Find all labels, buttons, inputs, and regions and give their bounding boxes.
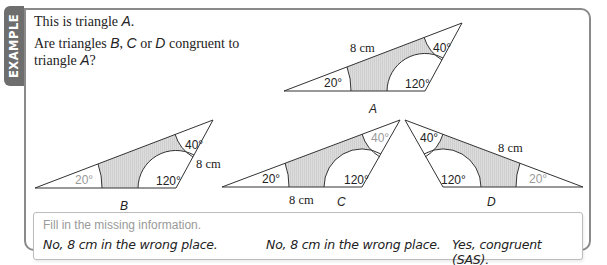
angle-20-greyed: 20° (529, 172, 547, 186)
answer-b[interactable]: No, 8 cm in the wrong place. (43, 237, 218, 252)
side-length: 8 cm (289, 193, 314, 207)
angle-20: 20° (324, 76, 342, 90)
side-length: 8 cm (350, 41, 375, 55)
triangle-label: C (337, 195, 346, 209)
fill-in-box: Fill in the missing information. No, 8 c… (33, 212, 583, 260)
angle-120: 120° (344, 173, 369, 187)
triangle-d: 20° 40° 120° 8 cm D (405, 120, 583, 209)
angle-20: 20° (262, 172, 280, 186)
triangle-label: A (368, 102, 377, 116)
angle-40: 40° (420, 131, 438, 145)
side-length: 8 cm (498, 141, 523, 155)
fill-prompt: Fill in the missing information. (43, 218, 201, 232)
angle-20-greyed: 20° (75, 173, 93, 187)
angle-120: 120° (441, 173, 466, 187)
angle-120: 120° (156, 174, 181, 188)
triangle-label: B (120, 199, 128, 213)
angle-40: 40° (185, 138, 203, 152)
angle-40: 40° (433, 41, 451, 55)
triangle-label: D (487, 195, 496, 209)
angle-120: 120° (405, 77, 430, 91)
triangle-a: 20° 40° 120° 8 cm A (284, 23, 462, 116)
answer-d[interactable]: Yes, congruent (SAS). (452, 237, 582, 265)
side-length: 8 cm (196, 157, 221, 171)
answer-c[interactable]: No, 8 cm in the wrong place. (266, 237, 441, 252)
triangle-c: 20° 40° 120° 8 cm C (222, 120, 400, 209)
angle-40-greyed: 40° (371, 131, 389, 145)
triangle-b: 20° 40° 120° 8 cm B (35, 120, 221, 213)
